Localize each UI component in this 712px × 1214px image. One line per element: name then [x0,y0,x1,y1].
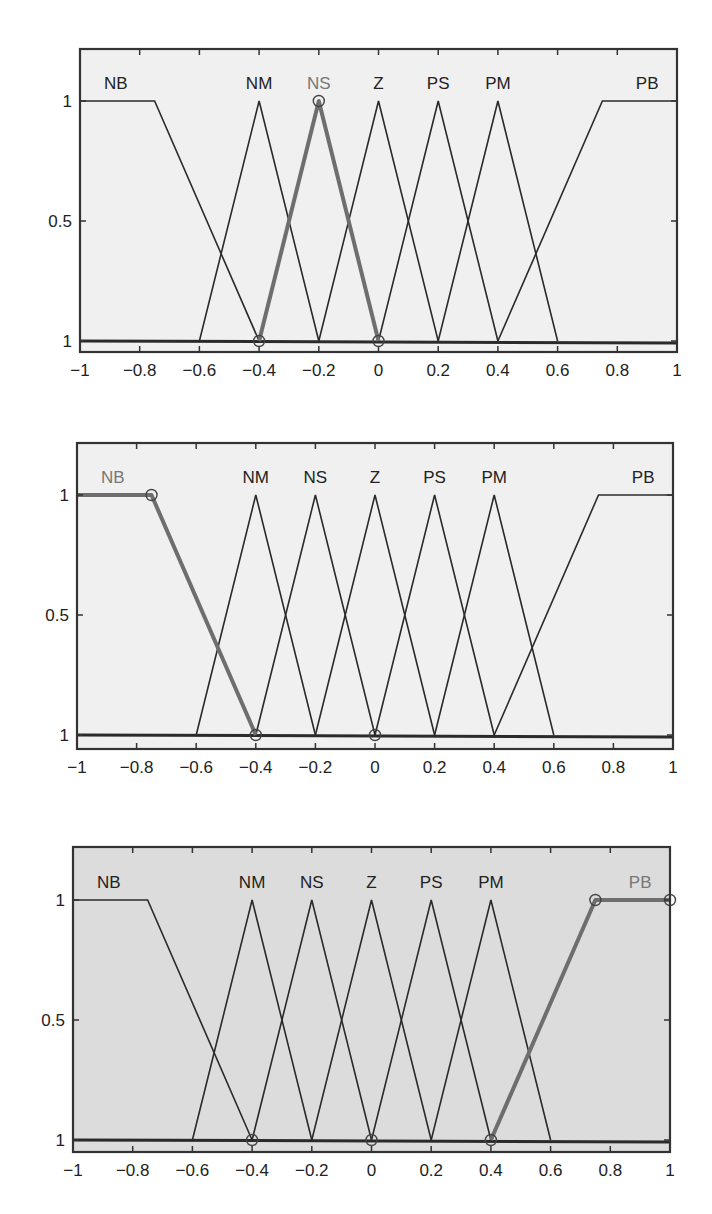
x-tick-label: 0.4 [482,758,506,777]
x-tick-label: −0.2 [299,758,333,777]
mf-label-pb: PB [629,873,652,892]
mf-label-z: Z [370,468,380,487]
mf-label-nm: NM [246,74,272,93]
x-tick-label: −1 [70,361,89,380]
x-tick-label: 0 [370,758,379,777]
y-tick-label: 0.5 [45,606,69,625]
mf-label-pm: PM [481,468,507,487]
mf-label-z: Z [373,74,383,93]
mf-label-pb: PB [636,74,659,93]
mf-label-ns: NS [304,468,328,487]
x-tick-label: 0.4 [479,1161,503,1180]
chart-panel-2: −1−0.8−0.6−0.4−0.200.20.40.60.8110.51NBN… [45,443,677,777]
membership-function-figure: −1−0.8−0.6−0.4−0.200.20.40.60.8110.51NBN… [0,0,712,1214]
y-tick-label: 1 [56,1131,65,1150]
mf-label-nm: NM [243,468,269,487]
x-tick-label: −0.6 [179,758,213,777]
y-tick-label: 1 [63,92,72,111]
x-tick-label: 0.8 [605,361,629,380]
x-tick-label: 0.2 [426,361,450,380]
y-tick-label: 1 [63,332,72,351]
x-tick-label: −0.4 [242,361,276,380]
x-tick-label: 0.8 [598,1161,622,1180]
y-tick-label: 1 [56,891,65,910]
x-tick-label: 1 [668,758,677,777]
x-tick-label: 0.6 [542,758,566,777]
x-tick-label: −0.8 [116,1161,150,1180]
x-tick-label: −1 [63,1161,82,1180]
x-tick-label: 0.6 [539,1161,563,1180]
y-tick-label: 0.5 [48,212,72,231]
mf-label-nb: NB [101,468,125,487]
x-tick-label: −0.2 [302,361,336,380]
mf-label-ps: PS [427,74,450,93]
mf-label-ps: PS [420,873,443,892]
x-tick-label: 0.2 [419,1161,443,1180]
x-tick-label: −1 [67,758,86,777]
x-tick-label: 0 [367,1161,376,1180]
mf-label-ns: NS [300,873,324,892]
x-tick-label: 0.6 [546,361,570,380]
baseline [80,341,677,343]
x-tick-label: −0.8 [123,361,157,380]
y-tick-label: 1 [60,486,69,505]
x-tick-label: −0.8 [120,758,154,777]
mf-label-nm: NM [239,873,265,892]
mf-label-nb: NB [104,74,128,93]
x-tick-label: −0.6 [176,1161,210,1180]
baseline [73,1140,670,1142]
plot-area [77,443,673,749]
baseline [77,735,673,737]
mf-label-pm: PM [478,873,504,892]
mf-label-pm: PM [485,74,511,93]
chart-panel-3: −1−0.8−0.6−0.4−0.200.20.40.60.8110.51NBN… [41,847,675,1180]
x-tick-label: −0.4 [239,758,273,777]
plot-area [80,49,677,352]
x-tick-label: −0.4 [235,1161,269,1180]
y-tick-label: 0.5 [41,1011,65,1030]
chart-panel-1: −1−0.8−0.6−0.4−0.200.20.40.60.8110.51NBN… [48,49,681,380]
x-tick-label: 0.2 [423,758,447,777]
x-tick-label: −0.6 [183,361,217,380]
x-tick-label: 0.4 [486,361,510,380]
mf-label-pb: PB [632,468,655,487]
mf-label-nb: NB [97,873,121,892]
x-tick-label: 1 [672,361,681,380]
x-tick-label: −0.2 [295,1161,329,1180]
y-tick-label: 1 [60,726,69,745]
x-tick-label: 0 [374,361,383,380]
x-tick-label: 0.8 [602,758,626,777]
plot-area [73,847,670,1152]
mf-label-ns: NS [307,74,331,93]
mf-label-ps: PS [423,468,446,487]
x-tick-label: 1 [665,1161,674,1180]
mf-label-z: Z [366,873,376,892]
